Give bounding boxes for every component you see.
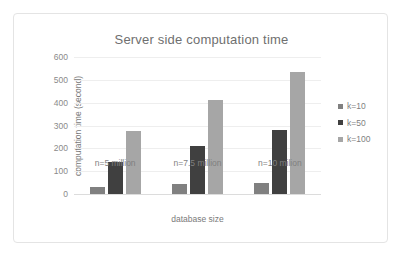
bar[interactable]: [208, 100, 223, 194]
y-axis-tick-label: 100: [54, 166, 68, 176]
legend-item-label: k=100: [347, 134, 370, 144]
bar-group: [239, 57, 321, 194]
y-axis-tick-label: 500: [54, 75, 68, 85]
legend-item[interactable]: k=50: [338, 115, 370, 132]
x-axis-tick-label: n=10 milion: [258, 158, 302, 168]
y-axis-tick-label: 0: [63, 189, 68, 199]
bar[interactable]: [172, 184, 187, 194]
x-axis-tick-label: n=7.5 million: [174, 158, 222, 168]
legend-item[interactable]: k=100: [338, 131, 370, 148]
y-axis-tick-label: 600: [54, 52, 68, 62]
legend-item-label: k=50: [347, 118, 366, 128]
y-axis-tick-label: 200: [54, 143, 68, 153]
plot-area: 6005004003002001000: [74, 57, 321, 194]
legend-swatch-icon: [338, 120, 343, 125]
legend-swatch-icon: [338, 137, 343, 142]
x-axis-title: database size: [74, 214, 321, 224]
y-axis-tick-label: 400: [54, 98, 68, 108]
gridline: 0: [74, 194, 321, 195]
chart-legend: k=10k=50k=100: [338, 98, 370, 148]
bar[interactable]: [90, 187, 105, 194]
legend-item[interactable]: k=10: [338, 98, 370, 115]
bar[interactable]: [190, 146, 205, 194]
bars-layer: [74, 57, 321, 194]
y-axis-tick-label: 300: [54, 121, 68, 131]
bar[interactable]: [254, 183, 269, 194]
bar-group: [156, 57, 238, 194]
legend-item-label: k=10: [347, 101, 366, 111]
chart-container: Server side computation time computation…: [13, 13, 388, 243]
chart-title: Server side computation time: [14, 32, 389, 47]
bar-group: [74, 57, 156, 194]
legend-swatch-icon: [338, 104, 343, 109]
bar[interactable]: [290, 72, 305, 194]
x-axis-tick-label: n=5 million: [95, 158, 136, 168]
